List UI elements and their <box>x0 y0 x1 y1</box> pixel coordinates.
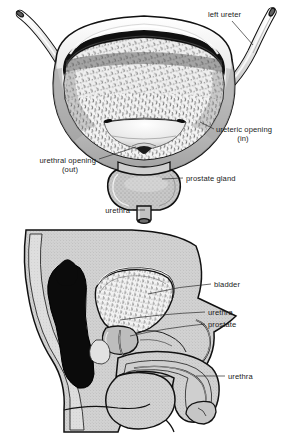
prostate-gland <box>108 170 181 210</box>
leader-left-ureter <box>232 21 253 45</box>
scrotum <box>106 372 175 432</box>
label-prostate-gland-text: prostate gland <box>186 174 236 183</box>
figure-bladder-anterior: left ureter ureteric opening (in) urethr… <box>0 0 288 228</box>
label-left-ureter-text: left ureter <box>208 10 242 19</box>
label-urethral-opening-text: urethral opening <box>40 156 96 165</box>
label-ureteric-opening-text: ureteric opening <box>216 125 272 134</box>
label-urethra-penile-text: urethra <box>228 372 253 381</box>
label-urethral-opening-subtext: (out) <box>62 165 78 174</box>
figure-male-pelvis-sagittal: bladder urethra prostate urethra <box>0 228 288 434</box>
pubic-symphysis <box>90 340 110 364</box>
label-prostate-text: prostate <box>208 320 236 329</box>
label-urethra-top-text: urethra <box>105 206 130 215</box>
label-urethra-prostatic-text: urethra <box>208 308 233 317</box>
label-ureteric-opening-subtext: (in) <box>237 134 249 143</box>
label-bladder-text: bladder <box>214 280 240 289</box>
anatomy-illustration-page: left ureter ureteric opening (in) urethr… <box>0 0 288 434</box>
urethra-tube <box>137 206 151 224</box>
